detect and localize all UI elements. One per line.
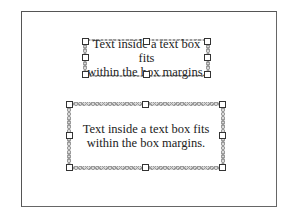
resize-handle-ne-icon[interactable] [219,101,226,108]
text-box-content[interactable]: Text inside a text box fits within the b… [87,41,206,75]
resize-handle-se-icon[interactable] [219,164,226,171]
resize-handle-ne-icon[interactable] [204,38,211,45]
resize-handle-w-icon[interactable] [66,132,73,139]
text-box-tight[interactable]: Text inside a text box fits within the b… [83,39,210,77]
resize-handle-s-icon[interactable] [143,71,150,78]
resize-handle-s-icon[interactable] [142,164,149,171]
resize-handle-w-icon[interactable] [82,54,89,61]
resize-handle-sw-icon[interactable] [82,71,89,78]
resize-handle-e-icon[interactable] [219,132,226,139]
resize-handle-nw-icon[interactable] [66,101,73,108]
text-box-content[interactable]: Text inside a text box fits within the b… [71,106,221,166]
text-line-2: within the box margins. [83,136,210,150]
text-box-wide[interactable]: Text inside a text box fits within the b… [67,102,225,170]
text-line-1: Text inside a text box fits [83,122,210,136]
resize-handle-se-icon[interactable] [204,71,211,78]
resize-handle-sw-icon[interactable] [66,164,73,171]
resize-handle-n-icon[interactable] [143,38,150,45]
resize-handle-e-icon[interactable] [204,54,211,61]
resize-handle-nw-icon[interactable] [82,38,89,45]
resize-handle-n-icon[interactable] [142,101,149,108]
